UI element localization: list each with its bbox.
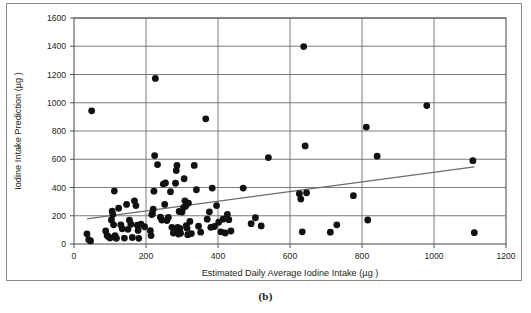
data-point: [111, 188, 118, 195]
data-point: [181, 175, 188, 182]
data-point: [191, 162, 198, 169]
data-point: [123, 201, 130, 208]
chart-panel: 0200400600800100012001400160002004006008…: [6, 3, 522, 281]
data-point: [162, 180, 169, 187]
data-point: [471, 229, 478, 236]
data-point: [197, 229, 204, 236]
data-point: [88, 107, 95, 114]
data-points: [84, 43, 478, 244]
y-tick-label: 1200: [47, 70, 66, 80]
data-point: [172, 180, 179, 187]
data-point: [151, 152, 158, 159]
data-point: [174, 162, 181, 169]
x-tick-label: 0: [72, 251, 77, 261]
data-point: [188, 230, 195, 237]
y-tick-label: 1600: [47, 13, 66, 23]
data-point: [302, 143, 309, 150]
x-tick-label: 600: [283, 251, 298, 261]
data-point: [129, 234, 136, 241]
data-point: [303, 189, 310, 196]
data-point: [185, 200, 192, 207]
data-point: [154, 161, 161, 168]
figure-caption: (b): [0, 290, 531, 302]
data-point: [150, 206, 157, 213]
data-point: [121, 235, 128, 242]
data-point: [225, 216, 232, 223]
data-point: [265, 154, 272, 161]
data-point: [252, 214, 259, 221]
y-tick-label: 200: [52, 211, 67, 221]
data-point: [187, 218, 194, 225]
data-point: [161, 201, 168, 208]
y-tick-label: 600: [52, 154, 67, 164]
data-point: [135, 227, 142, 234]
data-point: [297, 196, 304, 203]
data-point: [364, 217, 371, 224]
data-point: [213, 202, 220, 209]
data-point: [87, 237, 94, 244]
trendline: [87, 167, 474, 219]
data-point: [222, 230, 229, 237]
data-point: [195, 223, 202, 230]
data-point: [165, 214, 172, 221]
x-axis-title: Estimated Daily Average Iodine Intake (µ…: [202, 268, 379, 278]
data-point: [193, 186, 200, 193]
axis-ticks: [70, 18, 506, 248]
data-point: [423, 102, 430, 109]
data-point: [469, 157, 476, 164]
data-point: [135, 235, 142, 242]
data-point: [240, 185, 247, 192]
data-point: [119, 225, 126, 232]
data-point: [204, 216, 211, 223]
data-point: [167, 188, 174, 195]
data-point: [363, 124, 370, 131]
y-axis-title: Iodine Intake Prediction (µg ): [13, 72, 23, 190]
data-point: [177, 230, 184, 237]
y-tick-label: 1400: [47, 41, 66, 51]
x-tick-label: 200: [139, 251, 154, 261]
x-tick-label: 1200: [496, 251, 515, 261]
scatter-plot: 0200400600800100012001400160002004006008…: [7, 4, 521, 280]
data-point: [333, 221, 340, 228]
data-point: [110, 221, 117, 228]
x-tick-labels: 020040060080010001200: [72, 251, 516, 261]
data-point: [300, 43, 307, 50]
data-point: [209, 185, 216, 192]
y-tick-label: 1000: [47, 98, 66, 108]
data-point: [109, 211, 116, 218]
y-tick-label: 800: [52, 126, 67, 136]
data-point: [374, 153, 381, 160]
data-point: [151, 188, 158, 195]
x-tick-label: 1000: [424, 251, 443, 261]
data-point: [202, 115, 209, 122]
data-point: [350, 192, 357, 199]
data-point: [113, 235, 120, 242]
data-point: [206, 208, 213, 215]
data-point: [115, 205, 122, 212]
data-point: [184, 225, 191, 232]
data-point: [228, 228, 235, 235]
data-point: [152, 75, 159, 82]
x-tick-label: 800: [355, 251, 370, 261]
gridlines: [74, 18, 506, 244]
data-point: [84, 230, 91, 237]
data-point: [248, 220, 255, 227]
y-tick-label: 400: [52, 183, 67, 193]
y-tick-labels: 02004006008001000120014001600: [47, 13, 66, 249]
y-tick-label: 0: [61, 239, 66, 249]
data-point: [127, 221, 134, 228]
x-tick-label: 400: [211, 251, 226, 261]
data-point: [133, 202, 140, 209]
data-point: [148, 232, 155, 239]
data-point: [258, 223, 265, 230]
data-point: [141, 223, 148, 230]
figure-root: 0200400600800100012001400160002004006008…: [0, 0, 531, 313]
data-point: [327, 229, 334, 236]
data-point: [299, 228, 306, 235]
